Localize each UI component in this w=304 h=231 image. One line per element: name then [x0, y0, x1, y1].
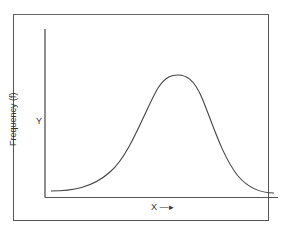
x-axis-label: X —▸ [151, 202, 174, 212]
y-axis-label: Frequency (f) [8, 92, 18, 146]
y-axis-symbol: Y [36, 116, 42, 126]
plot-area [0, 0, 304, 231]
distribution-curve [51, 75, 274, 193]
